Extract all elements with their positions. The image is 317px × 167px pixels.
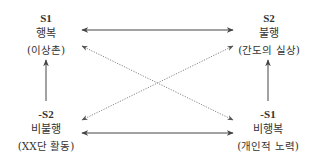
node-not-s2-example: (XX단 활동) [6, 138, 86, 154]
node-not-s1-label: 비행복 [224, 122, 312, 138]
node-s2-code: S2 [226, 10, 312, 26]
node-s1-label: 행복 [16, 26, 76, 42]
node-s1-example: (이상촌) [16, 42, 76, 58]
node-not-s2: -S2 비불행 (XX단 활동) [6, 106, 86, 154]
node-s1-code: S1 [16, 10, 76, 26]
node-not-s2-label: 비불행 [6, 122, 86, 138]
node-s2: S2 불행 (간도의 실상) [226, 10, 312, 58]
node-s2-example: (간도의 실상) [226, 42, 312, 58]
node-s2-label: 불행 [226, 26, 312, 42]
node-s1: S1 행복 (이상촌) [16, 10, 76, 58]
node-not-s2-code: -S2 [6, 106, 86, 122]
node-not-s1: -S1 비행복 (개인적 노력) [224, 106, 312, 154]
node-not-s1-code: -S1 [224, 106, 312, 122]
node-not-s1-example: (개인적 노력) [224, 138, 312, 154]
